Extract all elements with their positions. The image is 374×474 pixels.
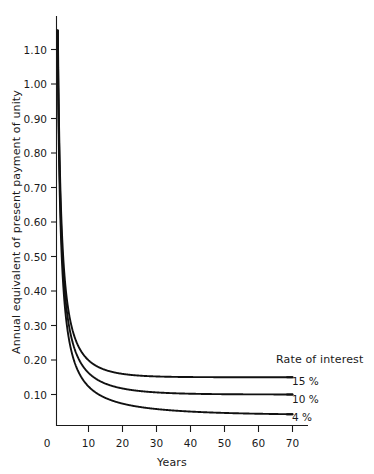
y-tick-label: 0.20 [24,354,47,366]
x-tick-label: 10 [82,437,95,449]
legend: Rate of interest 15 % 10 % 4 % [276,353,364,423]
y-tick-label: 0.40 [24,285,47,297]
chart-figure: 1.10 1.00 0.90 0.80 0.70 0.60 0.50 0.40 … [0,0,374,474]
y-tick-label: 1.10 [24,44,47,56]
curve-15 [58,31,293,378]
legend-entry-label-15: 15 % [292,375,319,387]
data-curves [58,31,293,415]
x-axis-ticks [89,426,293,432]
x-tick-label: 0 [44,437,51,449]
x-tick-label: 30 [150,437,163,449]
legend-entry-label-4: 4 % [292,411,312,423]
y-tick-label: 0.60 [24,216,47,228]
y-tick-label: 0.80 [24,147,47,159]
curve-4 [58,31,293,415]
y-tick-label: 0.70 [24,182,47,194]
y-tick-label: 0.50 [24,251,47,263]
x-tick-label: 40 [184,437,197,449]
curve-10 [58,31,293,395]
x-tick-labels: 0 10 20 30 40 50 60 70 [44,437,300,449]
x-tick-label: 70 [286,437,299,449]
y-tick-label: 0.10 [24,389,47,401]
legend-title: Rate of interest [276,353,364,366]
legend-entry-label-10: 10 % [292,393,319,405]
y-tick-label: 0.30 [24,320,47,332]
x-tick-label: 50 [218,437,231,449]
x-axis-label: Years [156,456,187,469]
y-axis-label: Annual equivalent of present payment of … [10,90,23,354]
x-tick-label: 60 [252,437,265,449]
y-tick-labels: 1.10 1.00 0.90 0.80 0.70 0.60 0.50 0.40 … [24,44,47,401]
y-tick-label: 1.00 [24,78,47,90]
y-tick-label: 0.90 [24,113,47,125]
x-tick-label: 20 [116,437,129,449]
line-chart: 1.10 1.00 0.90 0.80 0.70 0.60 0.50 0.40 … [0,0,374,474]
